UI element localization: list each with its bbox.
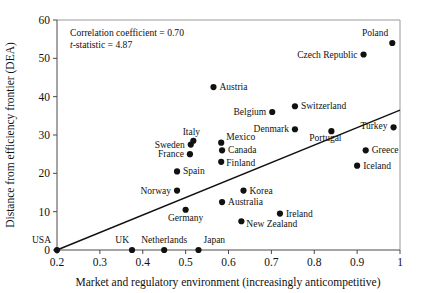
correlation-coefficient-annotation: Correlation coefficient = 0.70 — [70, 27, 184, 38]
x-tick-label: 1 — [397, 256, 403, 268]
point-marker — [190, 138, 196, 144]
y-tick-label: 30 — [39, 129, 51, 141]
point-label: Netherlands — [141, 235, 187, 245]
x-tick-label: 0.9 — [350, 256, 365, 268]
point-marker — [292, 103, 298, 109]
point-marker — [187, 151, 193, 157]
y-tick-label: 40 — [39, 91, 51, 103]
point-label: Finland — [226, 158, 255, 168]
point-label: Italy — [183, 127, 201, 137]
y-tick-label: 0 — [44, 244, 50, 256]
y-tick-label: 10 — [39, 206, 51, 218]
point-marker — [129, 247, 135, 253]
point-label: Iceland — [363, 161, 391, 171]
y-axis-title: Distance from efficiency frontier (DEA) — [4, 42, 17, 228]
y-tick-label: 60 — [39, 14, 51, 26]
point-label: Greece — [372, 145, 399, 155]
point-label: Austria — [219, 82, 248, 92]
point-label: Mexico — [226, 132, 255, 142]
x-tick-label: 0.5 — [178, 256, 193, 268]
data-point: Czech Republic — [297, 50, 367, 60]
point-marker — [174, 187, 180, 193]
point-label: Switzerland — [301, 101, 347, 111]
point-label: New Zealand — [246, 219, 297, 229]
point-label: UK — [115, 235, 129, 245]
point-marker — [390, 124, 396, 130]
x-tick-label: 0.4 — [136, 256, 151, 268]
point-label: Portugal — [309, 133, 342, 143]
t-statistic-annotation: t-statistic = 4.87 — [70, 39, 132, 50]
point-marker — [389, 40, 395, 46]
point-label: Turkey — [360, 121, 387, 131]
point-marker — [363, 147, 369, 153]
x-axis-title: Market and regulatory environment (incre… — [76, 276, 381, 289]
point-label: Korea — [250, 186, 274, 196]
x-tick-label: 0.2 — [50, 256, 65, 268]
data-point: Switzerland — [292, 101, 347, 111]
point-label: Czech Republic — [297, 50, 357, 60]
point-label: Ireland — [286, 209, 313, 219]
point-label: USA — [32, 235, 51, 245]
point-marker — [360, 51, 366, 57]
point-label: Denmark — [254, 124, 290, 134]
chart-canvas: 0.20.30.40.50.60.70.80.91 0102030405060 … — [0, 0, 430, 293]
point-label: Australia — [228, 197, 264, 207]
point-label: France — [158, 149, 184, 159]
point-marker — [210, 84, 216, 90]
point-marker — [269, 109, 275, 115]
data-point: New Zealand — [238, 218, 297, 229]
x-tick-label: 0.8 — [307, 256, 322, 268]
point-label: Canada — [228, 145, 257, 155]
scatter-plot-figure: 0.20.30.40.50.60.70.80.91 0102030405060 … — [0, 0, 430, 293]
figure-background — [0, 0, 430, 293]
point-label: Sweden — [155, 140, 185, 150]
point-marker — [277, 210, 283, 216]
point-label: Japan — [203, 235, 225, 245]
point-marker — [354, 163, 360, 169]
point-marker — [161, 247, 167, 253]
point-marker — [240, 187, 246, 193]
y-tick-label: 50 — [39, 52, 51, 64]
point-marker — [218, 159, 224, 165]
point-label: Poland — [362, 28, 389, 38]
point-marker — [195, 247, 201, 253]
point-marker — [219, 199, 225, 205]
point-marker — [54, 247, 60, 253]
t-statistic-value: -statistic = 4.87 — [73, 39, 133, 50]
point-label: Germany — [168, 213, 204, 223]
point-marker — [174, 168, 180, 174]
point-marker — [238, 218, 244, 224]
point-label: Spain — [183, 166, 205, 176]
point-marker — [219, 147, 225, 153]
x-tick-label: 0.3 — [93, 256, 108, 268]
point-marker — [292, 126, 298, 132]
point-marker — [218, 140, 224, 146]
x-tick-label: 0.7 — [264, 256, 279, 268]
point-label: Norway — [140, 186, 171, 196]
x-tick-label: 0.6 — [221, 256, 236, 268]
point-label: Belgium — [233, 107, 266, 117]
y-tick-label: 20 — [39, 167, 51, 179]
